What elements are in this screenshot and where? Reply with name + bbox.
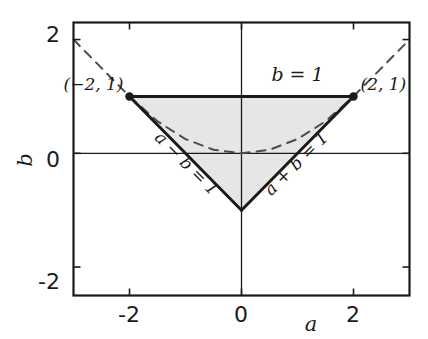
plot-svg: 2 0 -2 -2 0 2 a b (−2, 1) (2, 1) b = 1 a… (0, 0, 428, 339)
line-label-b-equals-1: b = 1 (271, 63, 323, 85)
point-label-left: (−2, 1) (64, 74, 124, 94)
y-axis-label: b (13, 153, 37, 166)
x-axis-label: a (305, 312, 318, 336)
plot-figure: 2 0 -2 -2 0 2 a b (−2, 1) (2, 1) b = 1 a… (0, 0, 428, 339)
x-tick-label-minus-2: -2 (118, 302, 140, 327)
y-tick-label-0: 0 (46, 147, 60, 172)
x-tick-label-0: 0 (234, 302, 248, 327)
y-tick-label-minus-2: -2 (38, 269, 60, 294)
vertex-left-marker (125, 92, 133, 100)
x-tick-label-2: 2 (346, 302, 360, 327)
vertex-right-marker (349, 92, 357, 100)
point-label-right: (2, 1) (361, 74, 407, 94)
y-tick-label-2: 2 (46, 22, 60, 47)
